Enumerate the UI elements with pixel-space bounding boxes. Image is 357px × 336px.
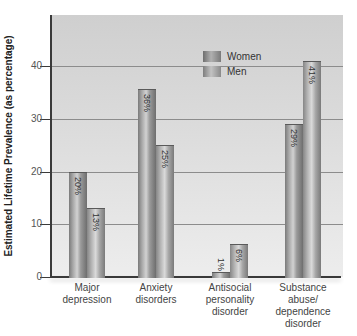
bar-men-anxiety-disorders: 25% xyxy=(156,145,174,278)
bar-value-label: 6% xyxy=(234,249,244,262)
legend-label-men: Men xyxy=(227,66,246,77)
bar-women-major-depression: 20% xyxy=(69,172,87,278)
legend-swatch-women xyxy=(203,51,221,62)
bar-men-antisocial-personality-disorder: 6% xyxy=(230,244,248,278)
bar-value-label: 20% xyxy=(73,177,83,195)
category-label-major-depression: Major depression xyxy=(47,282,127,306)
gridline-30 xyxy=(52,119,343,120)
y-tick-label: 10 xyxy=(24,219,42,229)
y-tick-label: 0 xyxy=(24,272,42,282)
bar-value-label: 36% xyxy=(142,94,152,112)
y-tick-label: 20 xyxy=(24,167,42,177)
legend-label-women: Women xyxy=(227,51,261,62)
category-label-line: depression xyxy=(47,294,127,306)
y-tick-label: 40 xyxy=(24,61,42,71)
bar-value-label: 41% xyxy=(307,66,317,84)
category-label-line: Antisocial xyxy=(190,282,270,294)
bar-men-major-depression: 13% xyxy=(87,208,105,278)
bar-value-label: 29% xyxy=(289,129,299,147)
bar-women-anxiety-disorders: 36% xyxy=(138,89,156,278)
category-label-substance-abuse: Substance abuse/ dependence disorder xyxy=(263,282,343,330)
category-label-line: disorder xyxy=(263,318,343,330)
legend-item-men: Men xyxy=(203,64,261,79)
bar-value-label: 13% xyxy=(91,213,101,231)
bar-value-label: 1% xyxy=(216,258,226,271)
category-label-anxiety-disorders: Anxiety disorders xyxy=(116,282,196,306)
legend-item-women: Women xyxy=(203,49,261,64)
legend-swatch-men xyxy=(203,66,221,77)
category-label-line: Anxiety xyxy=(116,282,196,294)
category-label-line: dependence xyxy=(263,306,343,318)
category-label-line: Substance xyxy=(263,282,343,294)
bar-women-antisocial-personality-disorder: 1% xyxy=(212,272,230,278)
category-label-line: abuse/ xyxy=(263,294,343,306)
gridline-40 xyxy=(52,66,343,67)
bar-chart: Estimated Lifetime Prevalence (as percen… xyxy=(0,0,357,336)
legend: Women Men xyxy=(203,49,261,79)
category-label-line: personality xyxy=(190,294,270,306)
y-axis-title: Estimated Lifetime Prevalence (as percen… xyxy=(3,26,17,266)
bar-value-label: 25% xyxy=(160,150,170,168)
category-label-line: disorders xyxy=(116,294,196,306)
category-label-line: disorder xyxy=(190,306,270,318)
bar-men-substance-abuse: 41% xyxy=(303,61,321,278)
y-tick-label: 30 xyxy=(24,114,42,124)
category-label-antisocial-personality-disorder: Antisocial personality disorder xyxy=(190,282,270,318)
bar-women-substance-abuse: 29% xyxy=(285,124,303,278)
category-label-line: Major xyxy=(47,282,127,294)
